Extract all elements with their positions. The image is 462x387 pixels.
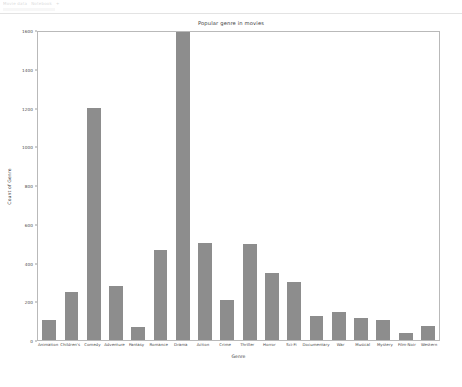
x-axis-tick-label: Fantasy bbox=[126, 342, 148, 347]
bar-slot bbox=[194, 32, 216, 340]
bar-series bbox=[38, 32, 439, 340]
x-axis-ticks: AnimationChildren'sComedyAdventureFantas… bbox=[37, 342, 440, 347]
bar-slot bbox=[127, 32, 149, 340]
bar[interactable] bbox=[399, 333, 413, 340]
x-axis-tick-label: Film-Noir bbox=[396, 342, 418, 347]
bar[interactable] bbox=[376, 320, 390, 340]
bar-slot bbox=[216, 32, 238, 340]
bar[interactable] bbox=[65, 292, 79, 340]
y-axis-tick-label: 0 bbox=[30, 339, 33, 344]
bar[interactable] bbox=[198, 243, 212, 340]
y-axis-tick-label: 1200 bbox=[22, 106, 33, 111]
x-axis-tick-label: Crime bbox=[214, 342, 236, 347]
x-axis-tick-label: Western bbox=[418, 342, 440, 347]
bar-slot bbox=[305, 32, 327, 340]
y-axis-tick-label: 1400 bbox=[22, 67, 33, 72]
bar[interactable] bbox=[354, 318, 368, 340]
bar-slot bbox=[395, 32, 417, 340]
bar-slot bbox=[60, 32, 82, 340]
browser-tab-0[interactable]: Movie data bbox=[3, 1, 27, 6]
x-axis-tick-label: Children's bbox=[59, 342, 81, 347]
bar[interactable] bbox=[310, 316, 324, 340]
bar-slot bbox=[239, 32, 261, 340]
browser-chrome: Movie data Notebook + bbox=[0, 0, 462, 14]
x-axis-tick-label: Horror bbox=[258, 342, 280, 347]
bar[interactable] bbox=[421, 326, 435, 340]
browser-new-tab-button[interactable]: + bbox=[56, 1, 60, 6]
x-axis-tick-label: Mystery bbox=[374, 342, 396, 347]
bar-slot bbox=[83, 32, 105, 340]
chart-figure: Popular genre in movies Count of Genre 0… bbox=[0, 14, 462, 387]
bar-slot bbox=[417, 32, 439, 340]
bar-slot bbox=[328, 32, 350, 340]
x-axis-tick-label: Adventure bbox=[103, 342, 125, 347]
y-axis-tick-label: 800 bbox=[25, 184, 33, 189]
bar[interactable] bbox=[176, 32, 190, 340]
x-axis-tick-label: Comedy bbox=[81, 342, 103, 347]
x-axis-tick-label: Action bbox=[192, 342, 214, 347]
x-axis-label: Genre bbox=[37, 354, 440, 359]
y-axis-tick-label: 200 bbox=[25, 300, 33, 305]
browser-url-bar[interactable] bbox=[3, 8, 55, 11]
bar[interactable] bbox=[220, 300, 234, 340]
bar[interactable] bbox=[87, 108, 101, 340]
x-axis-tick-label: War bbox=[330, 342, 352, 347]
bar[interactable] bbox=[154, 250, 168, 340]
x-axis-tick-label: Romance bbox=[148, 342, 170, 347]
bar[interactable] bbox=[243, 244, 257, 340]
bar[interactable] bbox=[42, 320, 56, 340]
bar-slot bbox=[372, 32, 394, 340]
x-axis-tick-label: Animation bbox=[37, 342, 59, 347]
y-axis-tick-label: 400 bbox=[25, 261, 33, 266]
bar[interactable] bbox=[109, 286, 123, 340]
bar-slot bbox=[38, 32, 60, 340]
bar-slot bbox=[105, 32, 127, 340]
bar-slot bbox=[149, 32, 171, 340]
x-axis-tick-label: Documentary bbox=[303, 342, 330, 347]
bar[interactable] bbox=[265, 273, 279, 340]
plot-area bbox=[37, 31, 440, 341]
bar-slot bbox=[172, 32, 194, 340]
y-axis-ticks: 02004006008001000120014001600 bbox=[0, 31, 37, 341]
y-axis-tick-label: 600 bbox=[25, 222, 33, 227]
y-axis-tick-label: 1000 bbox=[22, 145, 33, 150]
bar-slot bbox=[283, 32, 305, 340]
bar[interactable] bbox=[332, 312, 346, 340]
x-axis-tick-label: Drama bbox=[170, 342, 192, 347]
bar[interactable] bbox=[131, 327, 145, 340]
browser-tab-1[interactable]: Notebook bbox=[31, 1, 52, 6]
x-axis-tick-label: Sci-Fi bbox=[280, 342, 302, 347]
bar[interactable] bbox=[287, 282, 301, 340]
bar-slot bbox=[350, 32, 372, 340]
browser-tab-strip[interactable]: Movie data Notebook + bbox=[3, 1, 60, 6]
chart-title: Popular genre in movies bbox=[0, 20, 462, 26]
x-axis-tick-label: Musical bbox=[352, 342, 374, 347]
y-axis-tick-label: 1600 bbox=[22, 29, 33, 34]
x-axis-tick-label: Thriller bbox=[236, 342, 258, 347]
bar-slot bbox=[261, 32, 283, 340]
